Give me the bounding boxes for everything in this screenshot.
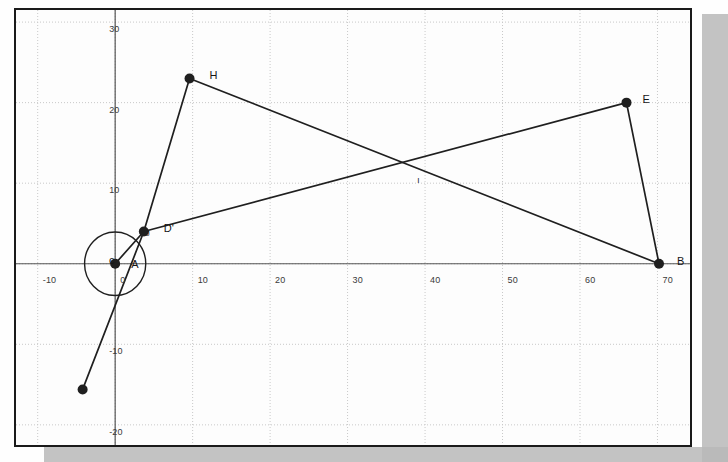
axis-layer bbox=[16, 10, 690, 445]
x-tick-label: -10 bbox=[43, 275, 57, 285]
segment-a-dp bbox=[115, 232, 144, 264]
y-tick-label: 10 bbox=[109, 185, 119, 195]
circle-label-c: c bbox=[109, 254, 115, 266]
segment-layer bbox=[83, 78, 659, 389]
x-tick-label: 60 bbox=[585, 275, 595, 285]
x-tick-label: 50 bbox=[508, 275, 518, 285]
y-tick-label: -20 bbox=[109, 427, 123, 437]
segment-dp-e bbox=[144, 103, 627, 232]
point-marker-h[interactable] bbox=[185, 73, 195, 83]
segment-h-b bbox=[190, 78, 659, 263]
frame-shadow-bottom bbox=[44, 447, 728, 462]
x-tick-label: 10 bbox=[198, 275, 208, 285]
point-label-j: J bbox=[146, 229, 150, 238]
point-label-dp: D' bbox=[164, 222, 174, 234]
point-label-e: E bbox=[642, 93, 649, 105]
x-tick-label: 40 bbox=[430, 275, 440, 285]
point-marker-b[interactable] bbox=[654, 259, 664, 269]
point-label-a: A bbox=[131, 258, 138, 270]
segment-h-dp bbox=[144, 78, 190, 231]
point-label-i: I bbox=[417, 176, 419, 185]
x-tick-label: 30 bbox=[353, 275, 363, 285]
marker-layer bbox=[78, 73, 664, 394]
x-tick-label: 0 bbox=[120, 275, 125, 285]
y-tick-label: -10 bbox=[109, 346, 123, 356]
plot-canvas bbox=[16, 10, 690, 445]
grid-layer bbox=[16, 10, 690, 445]
point-label-b: B bbox=[677, 255, 684, 267]
plot-frame: cAD'JHEBI-10010203040506070-20-10102030 bbox=[14, 8, 692, 447]
point-marker-k[interactable] bbox=[78, 384, 88, 394]
x-tick-label: 70 bbox=[662, 275, 672, 285]
point-label-h: H bbox=[210, 69, 218, 81]
x-tick-label: 20 bbox=[275, 275, 285, 285]
figure-page: cAD'JHEBI-10010203040506070-20-10102030 bbox=[0, 0, 728, 462]
frame-shadow-right bbox=[702, 14, 728, 462]
y-tick-label: 20 bbox=[109, 105, 119, 115]
y-tick-label: 30 bbox=[109, 24, 119, 34]
point-marker-e[interactable] bbox=[621, 98, 631, 108]
